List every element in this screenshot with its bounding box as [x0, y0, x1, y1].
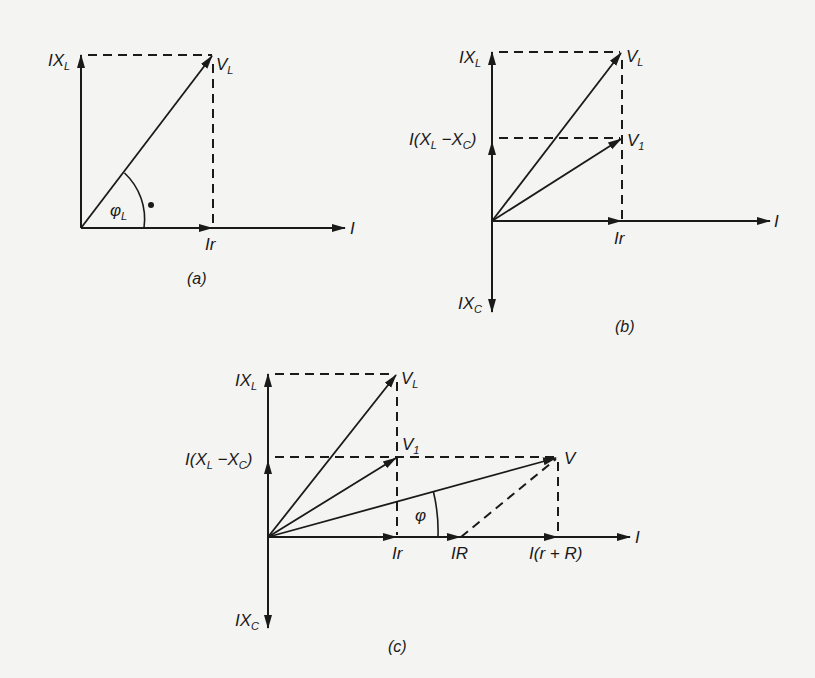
- a-phi-arc: [125, 173, 145, 228]
- a-label-phi: φL: [110, 201, 127, 222]
- c-label-ixl: IXL: [235, 371, 257, 392]
- c-label-total-drop: I(r + R): [529, 544, 582, 563]
- b-vl-vector: [492, 53, 621, 221]
- phasor-diagram-figure: IXL VL φL Ir I (a) IXL VL I(XL −XC) V1 I…: [0, 0, 815, 678]
- c-vl-vector: [268, 375, 396, 537]
- c-label-vl: VL: [401, 369, 418, 390]
- c-label-phi: φ: [415, 506, 426, 525]
- b-label-ixc: IXC: [458, 294, 482, 315]
- c-label-v1: V1: [402, 435, 419, 456]
- a-label-vl: VL: [216, 55, 233, 76]
- b-label-ir: Ir: [614, 229, 626, 248]
- c-label-net-reactive: I(XL −XC): [185, 450, 252, 471]
- a-angle-dot: [148, 202, 154, 208]
- diagram-c: IXL VL I(XL −XC) V1 V φ Ir IR I(r + R) I…: [185, 369, 640, 655]
- b-label-v1: V1: [627, 131, 644, 152]
- diagram-a: IXL VL φL Ir I (a): [48, 51, 355, 287]
- a-caption: (a): [187, 270, 207, 287]
- b-caption: (b): [615, 318, 635, 335]
- c-v-vector: [268, 458, 556, 537]
- c-caption: (c): [388, 638, 407, 655]
- b-v1-vector: [492, 139, 621, 221]
- b-label-ixl: IXL: [459, 48, 481, 69]
- diagram-b: IXL VL I(XL −XC) V1 Ir I IXC (b): [409, 47, 779, 335]
- c-label-i: I: [635, 528, 640, 547]
- c-phi-arc: [434, 492, 439, 537]
- c-label-ir: Ir: [392, 544, 404, 563]
- b-label-i: I: [774, 212, 779, 231]
- c-label-v: V: [564, 449, 577, 468]
- c-label-ir-resistor: IR: [451, 544, 468, 563]
- a-label-i: I: [350, 219, 355, 238]
- b-label-vl: VL: [626, 47, 643, 68]
- a-label-ir: Ir: [205, 235, 217, 254]
- c-v1-vector: [268, 458, 396, 537]
- b-label-net-reactive: I(XL −XC): [409, 130, 476, 151]
- a-vl-vector: [81, 56, 212, 228]
- c-label-ixc: IXC: [235, 611, 259, 632]
- a-label-ixl: IXL: [48, 51, 70, 72]
